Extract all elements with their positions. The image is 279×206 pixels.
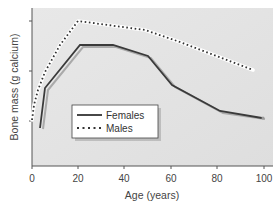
x-tick-0: 0 <box>29 173 35 184</box>
x-tick-100: 100 <box>256 173 273 184</box>
legend: Females Males <box>72 105 161 141</box>
x-tick-labels: 0 20 40 60 80 100 <box>29 173 273 184</box>
x-axis-label: Age (years) <box>125 189 179 201</box>
x-tick-40: 40 <box>118 173 130 184</box>
bone-mass-chart: 0 20 40 60 80 100 Age (years) Bone mass … <box>0 0 279 206</box>
y-axis-label: Bone mass (g calcium) <box>8 34 20 141</box>
legend-females-label: Females <box>106 110 144 121</box>
x-tick-60: 60 <box>165 173 177 184</box>
x-tick-20: 20 <box>72 173 84 184</box>
females-end-marker <box>262 117 265 120</box>
x-tick-80: 80 <box>211 173 223 184</box>
legend-males-label: Males <box>106 123 133 134</box>
